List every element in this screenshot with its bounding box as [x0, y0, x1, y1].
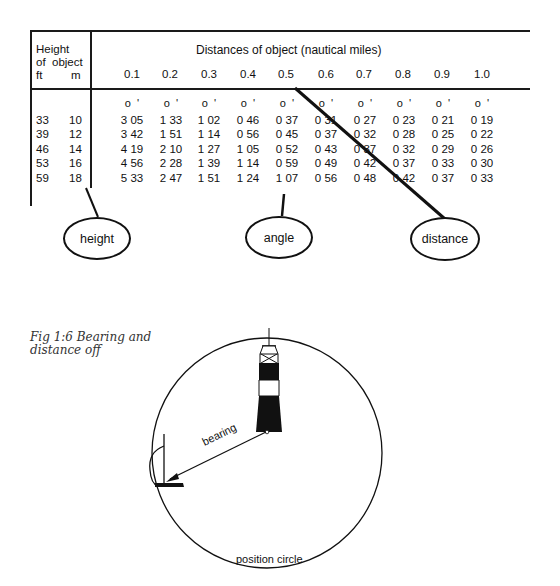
- angle-leader-line: [282, 194, 284, 216]
- lighthouse-icon: [256, 328, 282, 434]
- callout-distance-label: distance: [422, 232, 469, 246]
- figure-caption: Fig 1:6 Bearing and distance off: [30, 331, 151, 357]
- callout-distance: distance: [410, 217, 480, 261]
- callout-height: height: [63, 217, 131, 260]
- distance-leader-line: [295, 88, 445, 219]
- callout-height-label: height: [80, 232, 114, 246]
- figure-caption-line2: distance off: [30, 344, 151, 357]
- callout-angle: angle: [245, 216, 313, 259]
- height-leader-line: [86, 188, 98, 217]
- diagram-lines: [0, 0, 560, 586]
- callout-angle-label: angle: [264, 231, 295, 245]
- position-circle-label: position circle: [236, 553, 303, 565]
